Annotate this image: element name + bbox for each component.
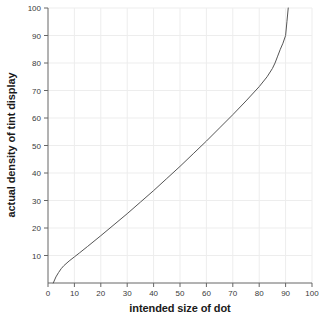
y-tick-label: 80	[32, 59, 41, 68]
tick-labels: 0102030405060708090100102030405060708090…	[28, 4, 320, 298]
y-tick-label: 30	[32, 197, 41, 206]
x-tick-label: 90	[281, 289, 290, 298]
x-tick-label: 100	[305, 289, 319, 298]
plot-area: 0102030405060708090100102030405060708090…	[0, 0, 320, 319]
chart-figure: actual density of tint display intended …	[0, 0, 320, 319]
x-tick-label: 40	[149, 289, 158, 298]
y-tick-label: 90	[32, 32, 41, 41]
x-tick-label: 10	[70, 289, 79, 298]
x-tick-label: 50	[176, 289, 185, 298]
y-tick-label: 100	[28, 4, 42, 13]
x-tick-label: 70	[228, 289, 237, 298]
x-tick-label: 0	[46, 289, 51, 298]
y-tick-label: 60	[32, 114, 41, 123]
x-tick-label: 60	[202, 289, 211, 298]
y-tick-label: 50	[32, 142, 41, 151]
gridlines	[48, 8, 312, 283]
x-tick-label: 80	[255, 289, 264, 298]
axis-ticks	[44, 8, 312, 287]
y-tick-label: 40	[32, 169, 41, 178]
y-tick-label: 70	[32, 87, 41, 96]
y-tick-label: 10	[32, 252, 41, 261]
x-tick-label: 20	[96, 289, 105, 298]
y-tick-label: 20	[32, 224, 41, 233]
x-tick-label: 30	[123, 289, 132, 298]
